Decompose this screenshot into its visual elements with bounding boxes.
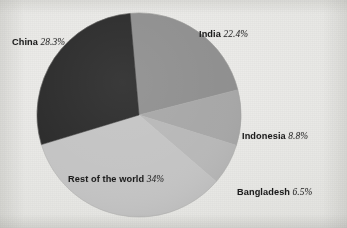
slice-label-china: China28.3% xyxy=(12,32,65,48)
slice-label-rest-value: 34% xyxy=(147,174,165,184)
slice-label-india-name: India xyxy=(199,29,221,39)
slice-label-india: India22.4% xyxy=(199,24,248,40)
slice-label-bangladesh-name: Bangladesh xyxy=(237,187,290,197)
slice-label-india-value: 22.4% xyxy=(223,29,248,39)
slice-label-rest-of-the-world: Rest of the world34% xyxy=(68,169,164,185)
slice-label-china-value: 28.3% xyxy=(41,37,66,47)
pie-shading-overlay xyxy=(37,13,241,217)
slice-label-bangladesh: Bangladesh6.5% xyxy=(237,182,313,198)
slice-label-bangladesh-value: 6.5% xyxy=(293,187,313,197)
slice-label-indonesia-name: Indonesia xyxy=(242,131,286,141)
pie-chart: China28.3% India22.4% Indonesia8.8% Bang… xyxy=(0,0,347,228)
slice-label-rest-name: Rest of the world xyxy=(68,174,144,184)
slice-label-china-name: China xyxy=(12,37,38,47)
slice-label-indonesia: Indonesia8.8% xyxy=(242,126,308,142)
slice-label-indonesia-value: 8.8% xyxy=(288,131,308,141)
